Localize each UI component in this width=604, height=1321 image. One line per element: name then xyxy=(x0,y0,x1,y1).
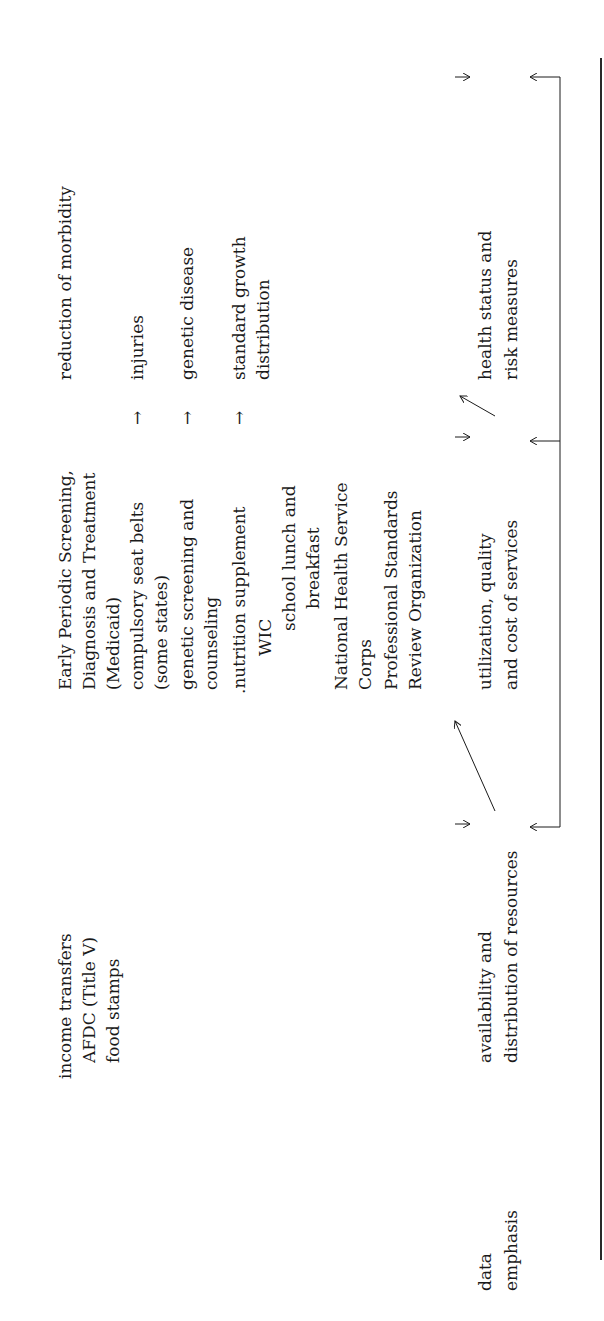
diagonal-arrow-icon xyxy=(460,396,495,416)
rotated-table-page: data emphasis income transfers AFDC (Tit… xyxy=(0,0,604,1321)
table-bottom-rule xyxy=(600,58,602,1260)
flow-arrows xyxy=(0,0,604,1321)
diagonal-arrow-icon xyxy=(455,721,495,811)
